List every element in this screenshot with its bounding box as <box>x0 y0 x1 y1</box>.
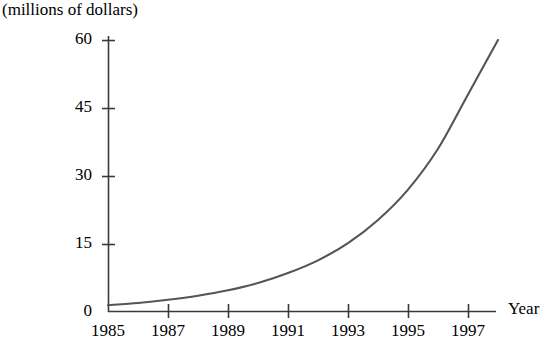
y-tick-label: 0 <box>52 301 92 321</box>
x-tick-label: 1991 <box>260 321 316 341</box>
data-series-line <box>108 40 498 305</box>
x-axis-caption: Year <box>508 299 539 319</box>
x-tick-label: 1997 <box>440 321 496 341</box>
x-tick-label: 1989 <box>200 321 256 341</box>
x-tick-label: 1987 <box>140 321 196 341</box>
y-tick-label: 45 <box>52 97 92 117</box>
y-tick-label: 15 <box>52 233 92 253</box>
chart-container: (millions of dollars) 015304560 19851987… <box>0 0 556 349</box>
y-tick-label: 60 <box>52 29 92 49</box>
y-tick-label: 30 <box>52 165 92 185</box>
x-tick-label: 1995 <box>380 321 436 341</box>
axis-lines <box>108 36 496 312</box>
x-tick-label: 1993 <box>320 321 376 341</box>
x-tick-label: 1985 <box>80 321 136 341</box>
